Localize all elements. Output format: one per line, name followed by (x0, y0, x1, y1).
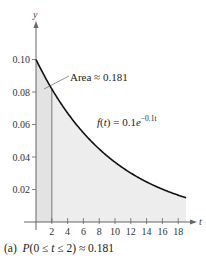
caption-p: P (23, 242, 30, 254)
x-tick-label: 14 (142, 226, 152, 237)
chart: t y 0.020.040.060.080.10 24681012141618 … (0, 0, 206, 242)
area-annotation: Area ≈ 0.181 (70, 71, 128, 83)
x-axis-label: t (199, 216, 202, 227)
x-tick-label: 12 (126, 226, 136, 237)
y-tick-label: 0.02 (13, 184, 31, 195)
caption-mid: (0 ≤ (30, 242, 52, 254)
y-axis-label: y (32, 9, 38, 20)
y-tick-label: 0.10 (13, 54, 31, 65)
y-axis-arrow-icon (34, 21, 39, 28)
x-tick-label: 2 (49, 226, 54, 237)
y-ticks: 0.020.040.060.080.10 (13, 54, 37, 195)
x-tick-label: 10 (110, 226, 120, 237)
caption: (a) P(0 ≤ t ≤ 2) ≈ 0.181 (4, 242, 114, 254)
x-tick-label: 16 (157, 226, 167, 237)
x-tick-label: 18 (173, 226, 183, 237)
x-tick-label: 8 (97, 226, 102, 237)
caption-end: ≤ 2) ≈ 0.181 (54, 242, 114, 254)
x-tick-label: 4 (65, 226, 70, 237)
x-tick-label: 6 (81, 226, 86, 237)
area-under-curve (36, 60, 186, 223)
y-tick-label: 0.08 (13, 87, 31, 98)
y-tick-label: 0.04 (13, 152, 31, 163)
x-axis-arrow-icon (190, 220, 197, 225)
caption-part: (a) (4, 242, 17, 254)
y-tick-label: 0.06 (13, 119, 31, 130)
